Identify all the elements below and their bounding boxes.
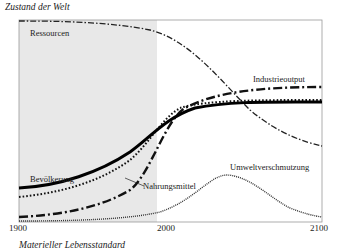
x-tick-2100: 2100 [310,223,328,233]
x-axis-caption: Materieller Lebensstandard [19,240,125,250]
label-industrieoutput: Industrieoutput [253,74,306,84]
x-tick-2000: 2000 [157,223,175,233]
label-umweltverschmutzung: Umweltverschmutzung [230,162,310,172]
label-nahrungsmittel: Nahrungsmittel [143,181,197,191]
label-ressourcen: Ressourcen [30,28,70,38]
historical-shading [19,20,157,222]
label-bevoelkerung: Bevölkerung [30,174,75,184]
x-tick-1900: 1900 [9,223,27,233]
chart-plot: Ressourcen Industrieoutput Nahrungsmitte… [0,0,341,252]
